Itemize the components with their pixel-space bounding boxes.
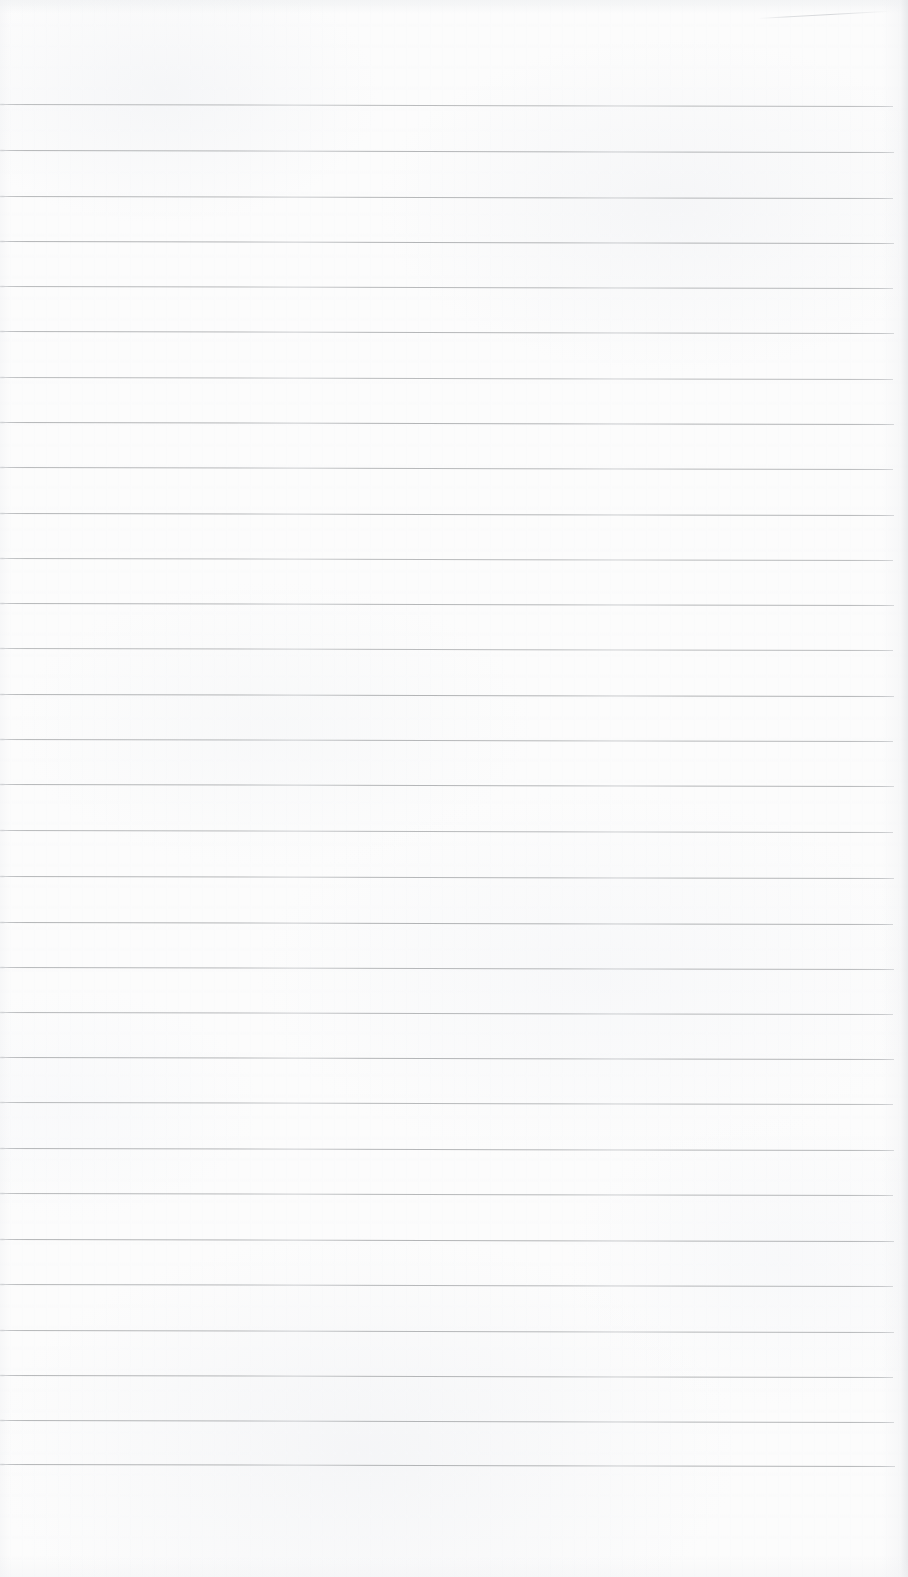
scanned-page — [0, 0, 908, 1577]
paper-background — [0, 0, 908, 1577]
